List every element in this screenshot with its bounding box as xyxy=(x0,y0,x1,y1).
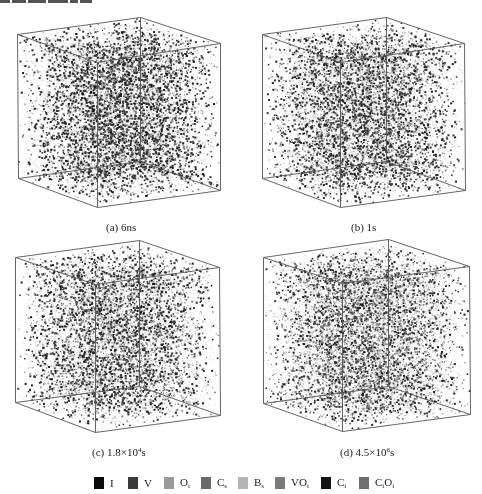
caption-text: (b) 1s xyxy=(351,221,376,233)
legend-swatch xyxy=(359,477,369,489)
caption-unit: s xyxy=(141,446,145,458)
legend-item: CiOi xyxy=(359,476,394,489)
legend-swatch xyxy=(128,477,138,489)
legend-swatch xyxy=(94,477,104,489)
panel-caption-c: (c) 1.8×104s xyxy=(92,446,146,458)
legend-label: Cs xyxy=(217,476,227,490)
legend: IVOiCsBsVOiCiCiOi xyxy=(0,476,482,490)
caption-text: (d) 4.5×10 xyxy=(340,446,387,458)
legend-swatch xyxy=(275,477,285,489)
legend-label: Ci xyxy=(337,476,346,490)
legend-swatch xyxy=(238,477,248,489)
legend-swatch xyxy=(164,477,174,489)
legend-swatch xyxy=(321,477,331,489)
legend-item: Ci xyxy=(321,476,346,489)
legend-item: V xyxy=(128,476,152,489)
caption-text: (a) 6ns xyxy=(106,221,136,233)
legend-label: Bs xyxy=(254,476,264,490)
panel-caption-d: (d) 4.5×106s xyxy=(340,446,394,458)
legend-item: I xyxy=(94,476,114,489)
caption-unit: s xyxy=(390,446,394,458)
legend-swatch xyxy=(201,477,211,489)
legend-label: CiOi xyxy=(375,476,394,490)
cube-scatter-canvas xyxy=(0,0,482,494)
legend-label: Oi xyxy=(180,476,190,490)
legend-label: I xyxy=(110,477,114,489)
legend-item: Bs xyxy=(238,476,264,489)
caption-text: (c) 1.8×10 xyxy=(92,446,138,458)
legend-item: Oi xyxy=(164,476,190,489)
panel-caption-b: (b) 1s xyxy=(351,221,376,233)
legend-label: V xyxy=(144,477,152,489)
legend-item: VOi xyxy=(275,476,309,489)
legend-label: VOi xyxy=(291,476,309,490)
legend-item: Cs xyxy=(201,476,227,489)
panel-caption-a: (a) 6ns xyxy=(106,221,136,233)
